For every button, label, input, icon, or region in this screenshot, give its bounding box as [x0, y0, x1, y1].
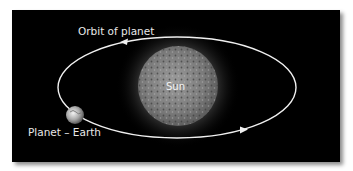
orbit-label: Orbit of planet: [78, 25, 154, 37]
orbit-arrow-bottom-icon: [240, 127, 248, 134]
earth-icon: [66, 106, 84, 124]
sun-label: Sun: [166, 81, 185, 92]
orbit-arrow-top-icon: [120, 39, 128, 46]
planet-label: Planet – Earth: [28, 126, 101, 138]
